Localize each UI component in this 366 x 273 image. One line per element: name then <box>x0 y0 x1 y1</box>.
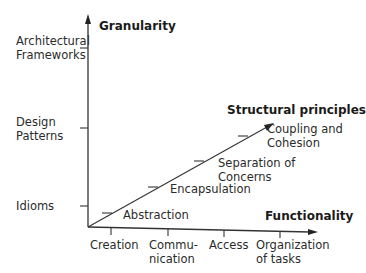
x-label-access: Access <box>209 238 248 252</box>
y-axis-arrowhead-icon <box>85 14 91 24</box>
diag-label-coupling-and-cohesion: Coupling and Cohesion <box>267 122 343 150</box>
x-label-communication: Commu- nication <box>149 238 198 266</box>
diag-label-abstraction: Abstraction <box>123 208 189 222</box>
diag-label-separation-of-concerns: Separation of Concerns <box>218 156 295 184</box>
y-label-architectural-frameworks: Architectural Frameworks <box>16 34 90 62</box>
x-axis-line <box>88 227 310 232</box>
x-axis-title: Functionality <box>265 209 353 223</box>
y-axis-title: Granularity <box>99 19 176 33</box>
x-label-creation: Creation <box>90 238 139 252</box>
diagonal-title: Structural principles <box>227 103 366 117</box>
y-label-idioms: Idioms <box>16 199 54 213</box>
x-axis-arrowhead-icon <box>308 229 318 235</box>
diag-label-encapsulation: Encapsulation <box>170 182 251 196</box>
x-label-organization-of-tasks: Organization of tasks <box>256 238 330 266</box>
y-label-design-patterns: Design Patterns <box>16 115 63 143</box>
